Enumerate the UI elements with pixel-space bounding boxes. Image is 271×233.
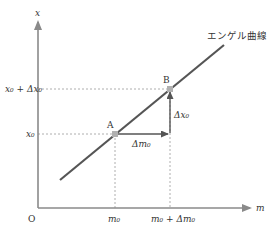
point-a-label: A	[106, 120, 114, 130]
point-b-label: B	[163, 75, 170, 85]
x-axis-label: m	[256, 203, 265, 213]
x-tick-m0-plus-dm0: m₀ + Δm₀	[151, 214, 195, 224]
engel-curve-diagram: x m O エンゲル曲線 A B Δm₀ Δx₀ x₀ + Δx₀ x₀ m₀ …	[0, 0, 271, 233]
origin-label: O	[28, 214, 35, 224]
x-tick-m0: m₀	[108, 214, 121, 224]
point-a-marker	[112, 131, 118, 137]
engel-curve-line	[60, 45, 224, 180]
y-tick-x0-plus-dx0: x₀ + Δx₀	[5, 84, 43, 94]
y-tick-x0: x₀	[26, 129, 35, 139]
y-axis-label: x	[35, 8, 40, 18]
delta-m-label: Δm₀	[131, 139, 151, 149]
delta-x-label: Δx₀	[173, 110, 190, 120]
point-b-marker	[167, 86, 173, 92]
curve-label: エンゲル曲線	[207, 30, 267, 41]
